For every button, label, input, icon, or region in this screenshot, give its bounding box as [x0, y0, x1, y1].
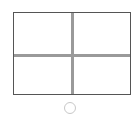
- horizontal-divider: [14, 54, 130, 57]
- grid-cell-top-left: [14, 13, 71, 54]
- radio-indicator-icon[interactable]: [64, 102, 76, 114]
- grid-cell-top-right: [74, 13, 130, 54]
- grid-frame: [13, 12, 131, 95]
- grid-cell-bottom-right: [74, 57, 130, 94]
- grid-cell-bottom-left: [14, 57, 71, 94]
- canvas: [0, 0, 140, 124]
